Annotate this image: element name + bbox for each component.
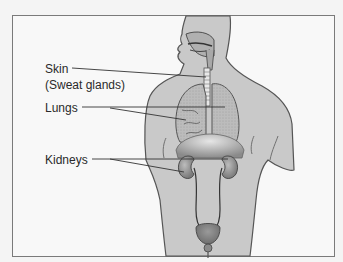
label-sweat-glands: (Sweat glands) — [45, 78, 125, 92]
prostate-icon — [204, 244, 212, 252]
label-kidneys: Kidneys — [45, 153, 88, 167]
label-lungs: Lungs — [45, 101, 78, 115]
body-diagram — [0, 0, 343, 262]
label-skin: Skin — [45, 62, 68, 76]
